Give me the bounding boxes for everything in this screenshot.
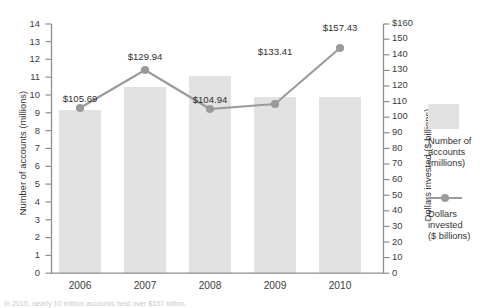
chart-footnote: In 2010, nearly 10 million accounts held… [4,299,187,308]
y-right-tick-20: 20 [392,237,426,246]
legend-item-accounts: Number of accounts (millions) [428,104,495,170]
chart-legend: Number of accounts (millions) Dollars in… [428,104,495,242]
y-right-tick-160: $160 [392,18,426,27]
y-left-tick-10: 10 [14,90,40,99]
marker-2009 [271,100,279,108]
y-right-tick-110: 110 [392,96,426,105]
legend-line-marker-icon [428,190,462,206]
legend-label-accounts-line2: accounts [428,147,495,158]
x-tick-2007: 2007 [115,280,175,291]
bar-2010 [319,97,361,273]
legend-label-accounts: Number of accounts (millions) [428,136,495,170]
y-right-tick-50: 50 [392,190,426,199]
right-axis-ticks [384,24,390,273]
bar-2006 [59,110,101,273]
y-left-tick-14: 14 [14,19,40,28]
legend-label-dollars-line2: invested [428,220,495,231]
y-left-tick-7: 7 [14,143,40,152]
y-left-tick-2: 2 [14,232,40,241]
bar-2009 [254,97,296,273]
marker-2008 [206,105,214,113]
y-right-tick-140: 140 [392,49,426,58]
y-right-tick-120: 120 [392,80,426,89]
y-left-tick-12: 12 [14,54,40,63]
data-label-2007: $129.94 [113,51,177,62]
y-left-tick-6: 6 [14,161,40,170]
legend-label-accounts-line3: (millions) [428,158,495,169]
x-tick-2009: 2009 [245,280,305,291]
y-left-tick-8: 8 [14,126,40,135]
y-right-tick-100: 100 [392,111,426,120]
y-left-tick-3: 3 [14,215,40,224]
y-right-tick-70: 70 [392,158,426,167]
legend-label-dollars-line1: Dollars [428,209,495,220]
y-right-tick-60: 60 [392,174,426,183]
marker-2007 [141,66,149,74]
y-right-tick-130: 130 [392,64,426,73]
x-tick-2008: 2008 [180,280,240,291]
y-left-tick-11: 11 [14,72,40,81]
legend-swatch-icon [428,104,459,129]
y-left-tick-13: 13 [14,37,40,46]
y-right-tick-40: 40 [392,205,426,214]
legend-dot-icon [441,194,449,202]
bar-2007 [124,87,166,273]
data-label-2009: $133.41 [243,46,307,57]
legend-label-dollars: Dollars invested ($ billions) [428,209,495,243]
legend-label-accounts-line1: Number of [428,136,495,147]
y-right-tick-150: 150 [392,33,426,42]
left-axis-ticks [46,24,52,273]
x-tick-2006: 2006 [50,280,110,291]
y-left-tick-0: 0 [14,268,40,277]
y-right-tick-90: 90 [392,127,426,136]
y-left-tick-4: 4 [14,197,40,206]
data-label-2010: $157.43 [308,22,372,33]
y-right-tick-10: 10 [392,252,426,261]
marker-2006 [76,104,84,112]
marker-2010 [336,44,344,52]
data-label-2006: $105.69 [48,93,112,104]
y-right-tick-80: 80 [392,143,426,152]
legend-label-dollars-line3: ($ billions) [428,231,495,242]
data-label-2008: $104.94 [178,94,242,105]
y-left-tick-1: 1 [14,250,40,259]
y-left-tick-5: 5 [14,179,40,188]
y-right-tick-0: 0 [392,268,426,277]
x-tick-2010: 2010 [310,280,370,291]
y-left-tick-9: 9 [14,108,40,117]
legend-item-dollars: Dollars invested ($ billions) [428,190,495,243]
y-right-tick-30: 30 [392,221,426,230]
